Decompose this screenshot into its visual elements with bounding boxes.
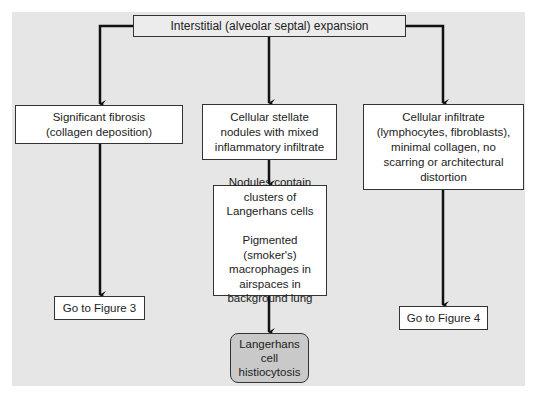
node-significant-fibrosis: Significant fibrosis (collagen depositio…	[15, 105, 183, 144]
node-label: Go to Figure 3	[63, 301, 137, 316]
node-label: Cellular infiltrate (lymphocytes, fibrob…	[377, 110, 511, 185]
node-langerhans-cell-histiocytosis: Langerhans cell histiocytosis	[230, 333, 309, 383]
arrow-root-to-infiltrate	[406, 26, 443, 103]
node-label: Go to Figure 4	[407, 311, 481, 326]
node-label: Cellular stellate nodules with mixed inf…	[215, 110, 324, 155]
node-go-to-figure-4[interactable]: Go to Figure 4	[399, 306, 488, 330]
node-cellular-infiltrate: Cellular infiltrate (lymphocytes, fibrob…	[363, 104, 524, 190]
arrow-root-to-fibrosis	[100, 26, 133, 104]
node-cellular-stellate-nodules: Cellular stellate nodules with mixed inf…	[202, 104, 337, 160]
root-node: Interstitial (alveolar septal) expansion	[133, 15, 406, 37]
node-label: Langerhans cell histiocytosis	[239, 337, 301, 379]
node-langerhans-clusters: Nodules contain clusters of Langerhans c…	[213, 185, 327, 296]
node-label: Nodules contain clusters of Langerhans c…	[218, 175, 322, 306]
root-node-label: Interstitial (alveolar septal) expansion	[170, 19, 368, 34]
node-label: Significant fibrosis (collagen depositio…	[46, 110, 152, 140]
node-go-to-figure-3[interactable]: Go to Figure 3	[54, 296, 145, 320]
